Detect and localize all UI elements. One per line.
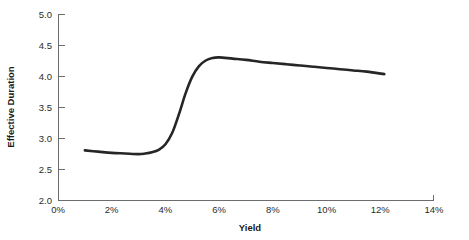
y-tick-label: 3.5 bbox=[39, 102, 52, 113]
x-tick-label: 12% bbox=[371, 204, 391, 215]
chart-container: Effective Duration 2.0 2.5 3.0 3.5 4.0 4… bbox=[0, 0, 469, 240]
y-tick-label: 4.5 bbox=[39, 40, 52, 51]
x-tick-label: 4% bbox=[159, 204, 173, 215]
y-tick-label: 2.0 bbox=[39, 195, 52, 206]
x-tick-label: 6% bbox=[212, 204, 226, 215]
y-tick-label: 4.0 bbox=[39, 71, 52, 82]
x-tick-labels: 0% 2% 4% 6% 8% 10% 12% 14% bbox=[51, 204, 444, 215]
x-axis-title: Yield bbox=[239, 222, 262, 233]
y-tick-label: 3.0 bbox=[39, 133, 52, 144]
x-tick-label: 2% bbox=[105, 204, 119, 215]
y-tick-labels: 2.0 2.5 3.0 3.5 4.0 4.5 5.0 bbox=[39, 9, 52, 206]
x-tick-label: 10% bbox=[317, 204, 337, 215]
effective-duration-line-chart: Effective Duration 2.0 2.5 3.0 3.5 4.0 4… bbox=[0, 0, 469, 240]
x-tick-label: 8% bbox=[266, 204, 280, 215]
x-tick-label: 0% bbox=[51, 204, 65, 215]
y-tick-label: 2.5 bbox=[39, 164, 52, 175]
y-tick-label: 5.0 bbox=[39, 9, 52, 20]
x-tick-label: 14% bbox=[424, 204, 444, 215]
y-tick-marks bbox=[59, 15, 65, 170]
data-line-effective-duration bbox=[85, 57, 384, 154]
y-axis-title: Effective Duration bbox=[5, 66, 16, 147]
